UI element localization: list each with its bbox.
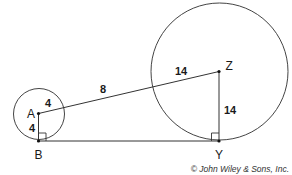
label-Z: Z bbox=[226, 59, 233, 73]
label-A: A bbox=[27, 107, 35, 121]
copyright-credit: © John Wiley & Sons, Inc. bbox=[191, 164, 289, 174]
label-Y: Y bbox=[215, 148, 223, 162]
segment-AZ bbox=[39, 72, 220, 114]
point-Y bbox=[217, 139, 220, 142]
point-B bbox=[37, 139, 40, 142]
length-label-small-radius-AB: 4 bbox=[29, 122, 36, 134]
length-label-AZ-outside: 8 bbox=[100, 83, 106, 95]
geometry-diagram: A B Z Y 4 4 8 14 14 © John Wiley & Sons,… bbox=[0, 0, 292, 175]
length-label-small-radius-upper: 4 bbox=[45, 97, 52, 109]
length-label-ZY: 14 bbox=[224, 104, 237, 116]
label-B: B bbox=[35, 148, 43, 162]
point-Z bbox=[217, 70, 220, 73]
point-A bbox=[37, 112, 40, 115]
length-label-large-radius-upper: 14 bbox=[175, 65, 188, 77]
